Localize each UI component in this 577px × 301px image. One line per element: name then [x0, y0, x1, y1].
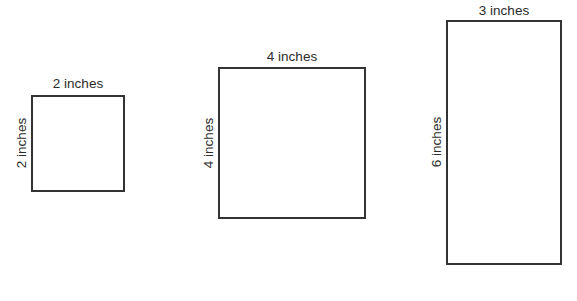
square-2-inch: [31, 95, 125, 192]
square-4-inch: [218, 67, 366, 219]
rectangle-3-by-6-inch-height-label: 6 inches: [429, 117, 445, 167]
rectangle-3-by-6-inch-width-label: 3 inches: [479, 3, 529, 19]
rectangle-3-by-6-inch: [446, 20, 562, 265]
square-2-inch-width-label: 2 inches: [53, 76, 103, 92]
square-4-inch-width-label: 4 inches: [267, 49, 317, 65]
square-4-inch-height-label: 4 inches: [201, 118, 217, 168]
square-2-inch-height-label: 2 inches: [14, 118, 30, 168]
